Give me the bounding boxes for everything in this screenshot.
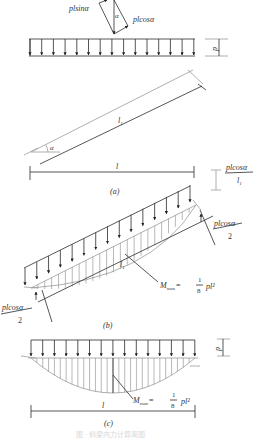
span-l-c: l <box>102 401 105 410</box>
reaction-b-left-num: plcosα <box>1 303 24 312</box>
l1-label-b: l1 <box>120 260 125 270</box>
mmax-c: Mmax= <box>132 396 154 406</box>
mmax-c-den: 8 <box>171 402 175 410</box>
alpha-label: α <box>115 12 119 20</box>
panel-a-label: (a) <box>110 187 120 196</box>
mmax-b: Mmax= <box>159 281 181 291</box>
panel-c: p Mmax= 1 8 pl² l (c) <box>21 339 230 428</box>
mmax-b-tail: pl² <box>205 282 215 291</box>
reaction-b-right-den: 2 <box>228 232 232 241</box>
figure-caption: 图 · 斜梁内力计算简图 <box>76 430 145 439</box>
mmax-b-num: 1 <box>198 276 202 284</box>
inclined-beam-diagram: plsinα plcosα α p α l1 l (a) plcosα l1 <box>0 0 255 439</box>
plsin-label: plsinα <box>68 4 90 13</box>
load-p-label: p <box>210 47 219 52</box>
angle-alpha-a: α <box>50 144 54 152</box>
panel-b-label: (b) <box>103 321 113 330</box>
force-decomposition: plsinα plcosα α <box>68 0 155 34</box>
panel-b: l1 Mmax= 1 8 pl² plcosα 2 plcosα 2 (b) <box>1 185 242 330</box>
panel-c-label: (c) <box>104 419 113 428</box>
mmax-b-den: 8 <box>197 287 201 295</box>
load-p-label-c: p <box>213 347 222 352</box>
mmax-c-num: 1 <box>172 391 176 399</box>
reaction-b-left-den: 2 <box>18 316 22 325</box>
l1-label-a: l1 <box>118 116 123 126</box>
reaction-a-num: plcosα <box>225 163 248 172</box>
uniform-load-top: p <box>29 39 228 56</box>
span-l-a: l <box>116 162 119 171</box>
plcos-label: plcosα <box>132 15 155 24</box>
panel-a: α l1 l (a) plcosα l1 <box>24 70 253 196</box>
reaction-a-den: l1 <box>237 176 242 186</box>
mmax-c-tail: pl² <box>180 397 190 406</box>
